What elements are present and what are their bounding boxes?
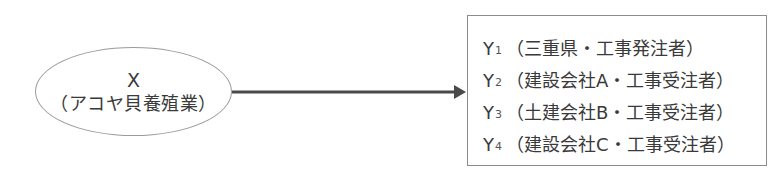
target-description: （建設会社C・工事受注者） bbox=[506, 134, 735, 155]
target-letter: Y bbox=[483, 130, 494, 159]
target-box: Y1（三重県・工事発注者） Y2（建設会社A・工事受注者） Y3（土建会社B・工… bbox=[467, 15, 767, 166]
target-index: 4 bbox=[495, 140, 502, 153]
target-item-y1: Y1（三重県・工事発注者） bbox=[483, 34, 766, 66]
target-description: （土建会社B・工事受注者） bbox=[506, 102, 734, 123]
target-letter: Y bbox=[483, 66, 494, 95]
target-letter: Y bbox=[483, 98, 494, 127]
target-index: 2 bbox=[495, 76, 502, 89]
target-description: （三重県・工事発注者） bbox=[506, 38, 704, 59]
target-index: 3 bbox=[495, 108, 502, 121]
target-description: （建設会社A・工事受注者） bbox=[506, 70, 734, 91]
arrowhead-icon bbox=[454, 85, 466, 99]
target-letter: Y bbox=[483, 34, 494, 63]
target-item-y2: Y2（建設会社A・工事受注者） bbox=[483, 66, 766, 98]
target-item-y3: Y3（土建会社B・工事受注者） bbox=[483, 98, 766, 130]
target-item-y4: Y4（建設会社C・工事受注者） bbox=[483, 130, 766, 162]
target-index: 1 bbox=[495, 44, 502, 57]
